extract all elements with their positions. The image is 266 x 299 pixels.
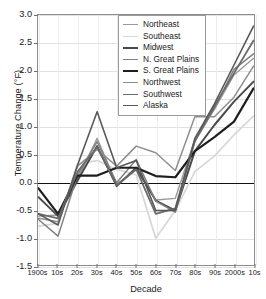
x-tick-label: 10s — [249, 268, 261, 277]
x-tick-label: 40s — [110, 268, 122, 277]
chart-legend: NortheastSoutheastMidwestN. Great Plains… — [118, 15, 206, 116]
x-tick-label: 50s — [130, 268, 142, 277]
legend-swatch — [123, 24, 138, 25]
x-axis-tick-labels: 1900s10s20s30s40s50s60s70s80s90s2000s10s — [37, 268, 255, 282]
x-tick-mark — [76, 264, 77, 268]
y-tick-label: 2.0 — [19, 65, 32, 75]
x-tick-mark — [136, 264, 137, 268]
legend-label: Northeast — [143, 19, 179, 31]
legend-swatch — [123, 105, 138, 106]
legend-swatch — [123, 82, 138, 83]
legend-label: Southeast — [143, 31, 180, 43]
x-tick-mark — [175, 264, 176, 268]
y-tick-label: 1.0 — [19, 121, 32, 131]
legend-swatch — [123, 94, 138, 95]
x-tick-label: 1900s — [27, 268, 47, 277]
temperature-change-line-chart: Temperature Change (°F) 3.02.52.01.51.00… — [0, 0, 266, 299]
x-tick-mark — [155, 264, 156, 268]
y-tick-label: 1.5 — [19, 93, 32, 103]
y-tick-label: 3.0 — [19, 9, 32, 19]
x-tick-mark — [215, 264, 216, 268]
y-tick-label: -0.5 — [16, 205, 32, 215]
x-tick-label: 2000s — [225, 268, 245, 277]
legend-swatch — [123, 70, 138, 72]
x-tick-label: 60s — [150, 268, 162, 277]
x-tick-label: 30s — [91, 268, 103, 277]
x-tick-label: 90s — [209, 268, 221, 277]
y-tick-label: -1.0 — [16, 233, 32, 243]
x-tick-mark — [234, 264, 235, 268]
legend-label: S. Great Plains — [143, 65, 199, 77]
legend-item-n-great-plains: N. Great Plains — [123, 54, 199, 66]
legend-item-alaska: Alaska — [123, 100, 199, 112]
y-axis-tick-labels: 3.02.52.01.51.00.50.0-0.5-1.0-1.5 — [6, 8, 32, 272]
legend-label: Southwest — [143, 89, 182, 101]
x-tick-mark — [96, 264, 97, 268]
vertical-gridline — [256, 15, 257, 265]
legend-item-northwest: Northwest — [123, 77, 199, 89]
legend-label: Midwest — [143, 42, 173, 54]
y-tick-label: 0.0 — [19, 177, 32, 187]
x-axis-title: Decade — [37, 284, 255, 294]
legend-swatch — [123, 36, 138, 37]
series-line-southeast — [38, 116, 253, 238]
x-tick-mark — [254, 264, 255, 268]
clipped-title-strip — [0, 0, 266, 7]
legend-label: Northwest — [143, 77, 180, 89]
legend-item-northeast: Northeast — [123, 19, 199, 31]
x-tick-label: 80s — [189, 268, 201, 277]
x-tick-label: 70s — [170, 268, 182, 277]
x-tick-label: 10s — [51, 268, 63, 277]
y-tick-label: 2.5 — [19, 37, 32, 47]
legend-item-southwest: Southwest — [123, 89, 199, 101]
legend-item-midwest: Midwest — [123, 42, 199, 54]
x-tick-mark — [37, 264, 38, 268]
x-tick-mark — [57, 264, 58, 268]
legend-label: Alaska — [143, 100, 168, 112]
legend-item-southeast: Southeast — [123, 31, 199, 43]
legend-swatch — [123, 59, 138, 60]
legend-label: N. Great Plains — [143, 54, 199, 66]
x-tick-label: 20s — [71, 268, 83, 277]
x-tick-mark — [116, 264, 117, 268]
legend-item-s-great-plains: S. Great Plains — [123, 65, 199, 77]
legend-swatch — [123, 47, 138, 49]
x-tick-mark — [195, 264, 196, 268]
y-tick-label: 0.5 — [19, 149, 32, 159]
